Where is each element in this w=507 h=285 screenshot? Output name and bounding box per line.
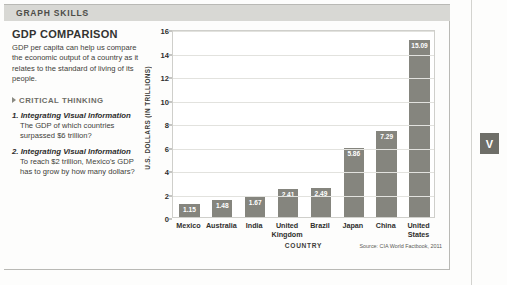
y-axis-label: U.S. DOLLARS (IN TRILLIONS) <box>144 66 156 170</box>
bar: 5.86 <box>344 148 364 217</box>
panel-title: GDP COMPARISON <box>12 28 140 40</box>
question-item: 1. Integrating Visual Information The GD… <box>12 111 140 141</box>
x-axis-tick-label: Brazil <box>304 222 337 231</box>
x-axis-tick-label: India <box>238 222 271 231</box>
gridline <box>173 55 434 56</box>
x-axis-tick-label: Japan <box>336 222 369 231</box>
y-axis-tick-label: 16 <box>161 27 169 36</box>
bar-chart: U.S. DOLLARS (IN TRILLIONS) 1.151.481.67… <box>146 28 442 260</box>
section-header-band: GRAPH SKILLS › <box>4 5 450 21</box>
section-title: GRAPH SKILLS <box>16 8 89 18</box>
bar-series: 1.151.481.672.412.495.867.2915.09 <box>173 31 434 217</box>
x-axis-tick-label: United States <box>402 222 435 239</box>
bar: 2.41 <box>278 189 298 217</box>
y-axis-tick-mark <box>169 125 172 126</box>
question-title: 2. Integrating Visual Information <box>12 147 140 157</box>
gridline <box>173 196 434 197</box>
bar-value-label: 2.41 <box>278 191 298 198</box>
gridline <box>173 149 434 150</box>
bar: 1.15 <box>179 204 199 218</box>
left-text-column: GDP COMPARISON GDP per capita can help u… <box>12 28 140 177</box>
bar-value-label: 15.09 <box>409 42 429 49</box>
question-body: The GDP of which countries surpassed $6 … <box>20 121 140 141</box>
y-axis-tick-label: 12 <box>161 74 169 83</box>
question-title: 1. Integrating Visual Information <box>12 111 140 121</box>
y-axis-tick-mark <box>169 54 172 55</box>
bar-value-label: 1.67 <box>245 199 265 206</box>
section-marker-badge: V <box>480 133 499 154</box>
gridline <box>173 78 434 79</box>
chevron-right-icon: › <box>82 8 85 18</box>
question-heading: Integrating Visual Information <box>21 111 131 120</box>
bar: 7.29 <box>376 131 396 217</box>
x-axis-tick-label: United Kingdom <box>271 222 304 239</box>
gridline <box>173 102 434 103</box>
graph-skills-page: GRAPH SKILLS › GDP COMPARISON GDP per ca… <box>0 0 507 285</box>
bar-value-label: 5.86 <box>344 150 364 157</box>
y-axis-tick-mark <box>169 195 172 196</box>
gridline <box>173 172 434 173</box>
x-axis-tick-label: Australia <box>205 222 238 231</box>
y-axis-tick-mark <box>169 31 172 32</box>
y-axis-tick-mark <box>169 219 172 220</box>
critical-thinking-label: CRITICAL THINKING <box>19 96 104 105</box>
y-axis-tick-mark <box>169 148 172 149</box>
panel-description: GDP per capita can help us compare the e… <box>12 43 140 85</box>
y-axis-tick-label: 10 <box>161 97 169 106</box>
page-edge-rule <box>471 0 472 285</box>
question-number: 1. <box>12 111 19 120</box>
gridline <box>173 125 434 126</box>
x-axis-tick-label: Mexico <box>172 222 205 231</box>
bar-value-label: 7.29 <box>376 133 396 140</box>
gridline <box>173 31 434 32</box>
bar: 2.49 <box>311 188 331 217</box>
bar-value-label: 1.15 <box>179 206 199 213</box>
y-axis-tick-label: 14 <box>161 50 169 59</box>
bar: 1.67 <box>245 197 265 217</box>
question-heading: Integrating Visual Information <box>21 147 131 156</box>
chart-source-note: Source: CIA World Factbook, 2011 <box>360 243 443 249</box>
y-axis-tick-mark <box>169 78 172 79</box>
question-number: 2. <box>12 147 19 156</box>
x-axis-tick-label: China <box>369 222 402 231</box>
triangle-right-icon <box>12 97 16 103</box>
question-body: To reach $2 trillion, Mexico's GDP has t… <box>20 157 140 177</box>
y-axis-tick-mark <box>169 172 172 173</box>
bar: 15.09 <box>409 40 429 217</box>
plot-area: 1.151.481.672.412.495.867.2915.09 024681… <box>172 30 435 218</box>
bar: 1.48 <box>212 200 232 217</box>
question-item: 2. Integrating Visual Information To rea… <box>12 147 140 177</box>
critical-thinking-heading: CRITICAL THINKING <box>12 96 140 105</box>
bar-value-label: 1.48 <box>212 202 232 209</box>
y-axis-tick-mark <box>169 101 172 102</box>
